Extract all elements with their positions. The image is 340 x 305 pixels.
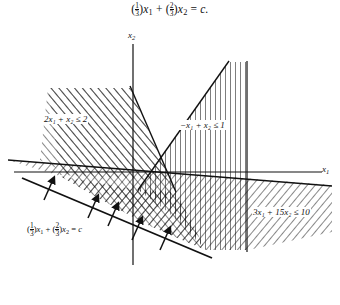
title-fraction-two-thirds: 23 xyxy=(170,2,174,18)
constraint-label-neg-x1-x2: −x₁ + x₂ ≤ 1 xyxy=(179,120,226,130)
objective-fraction-one-third: 13 xyxy=(30,222,34,238)
linear-programming-diagram xyxy=(0,0,340,305)
objective-function-label: (13)x1 + (23)x2 = c xyxy=(26,222,83,238)
objective-fraction-two-thirds: 23 xyxy=(55,222,59,238)
constraint-label-2x1-x2: 2x₁ + x₂ ≤ 2 xyxy=(43,114,88,124)
title-fraction-one-third: 13 xyxy=(135,2,139,18)
constraint-label-3x1-15x2: 3x₁ + 15x₂ ≤ 10 xyxy=(252,207,311,217)
x-axis-label: x1 xyxy=(322,164,329,175)
page-title: (13)x1 + (23)x2 = c. xyxy=(0,2,340,18)
y-axis-label: x2 xyxy=(128,30,135,41)
